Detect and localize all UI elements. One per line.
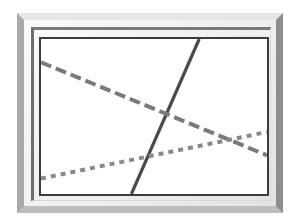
line-chart xyxy=(41,39,267,194)
series-line-solid xyxy=(131,39,199,194)
framed-chart-illustration xyxy=(0,0,291,219)
series-layer xyxy=(41,39,267,194)
plot-area xyxy=(39,37,269,196)
